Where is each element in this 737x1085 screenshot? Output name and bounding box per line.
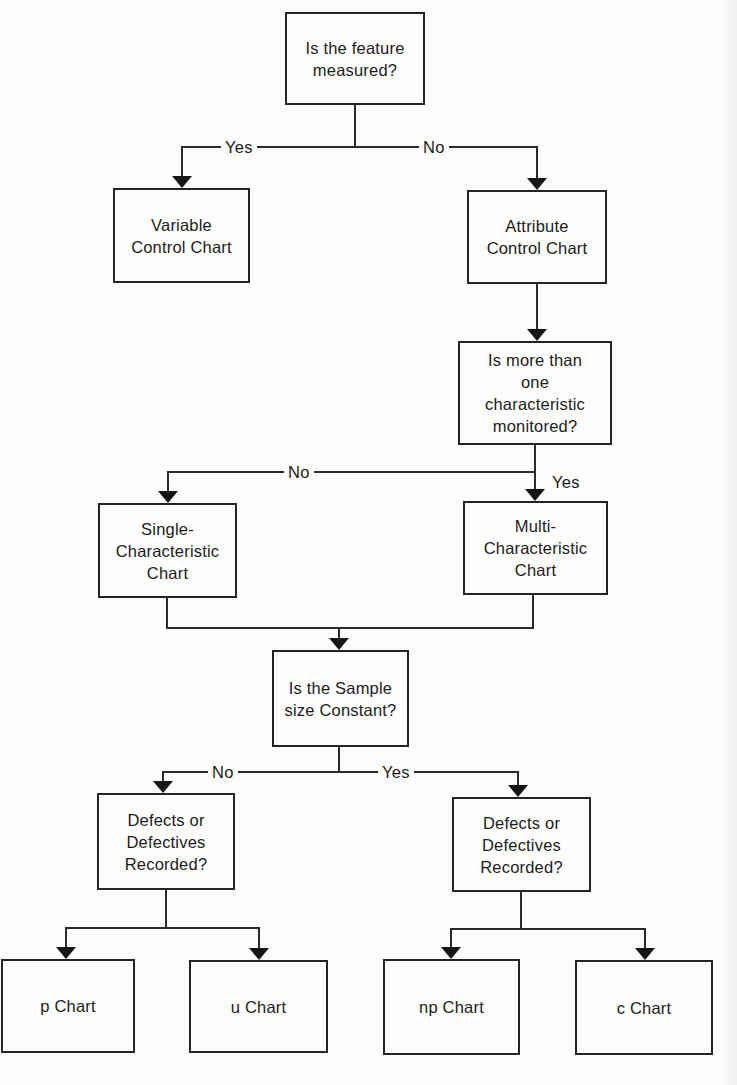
node-is-more-than-one-characteristic: Is more than one characteristic monitore… <box>458 341 612 445</box>
edge-label-multi-no: No <box>284 463 314 481</box>
edge-label-sample-yes: Yes <box>378 763 414 781</box>
flowchart-page: Is the feature measured? Variable Contro… <box>0 0 737 1085</box>
node-multi-characteristic-chart: Multi- Characteristic Chart <box>463 501 608 595</box>
node-defects-or-defectives-right: Defects or Defectives Recorded? <box>452 797 591 892</box>
edge-defects-left-stem-line <box>165 890 167 929</box>
arrowhead-into-attribute <box>527 178 547 190</box>
arrowhead-into-qsample <box>329 638 349 650</box>
arrowhead-into-qmulti <box>527 329 547 341</box>
node-is-sample-size-constant: Is the Sample size Constant? <box>272 650 409 747</box>
edge-label-measured-no: No <box>419 138 449 156</box>
arrowhead-into-single <box>158 491 178 503</box>
arrowhead-into-u-chart <box>249 948 269 960</box>
arrowhead-into-defects-right <box>508 785 528 797</box>
edge-defects-right-split-line <box>450 928 646 930</box>
edge-no-to-attribute-line <box>536 146 538 179</box>
node-np-chart: np Chart <box>383 959 520 1055</box>
arrowhead-into-np-chart <box>441 947 461 959</box>
edge-merge-line <box>166 627 534 629</box>
edge-qmulti-stem-line <box>534 445 536 490</box>
edge-to-c-chart-line <box>644 928 646 948</box>
node-p-chart: p Chart <box>1 959 135 1053</box>
arrowhead-into-variable <box>172 176 192 188</box>
node-attribute-control-chart: Attribute Control Chart <box>467 190 607 284</box>
edge-label-measured-yes: Yes <box>221 138 257 156</box>
edge-to-u-chart-line <box>258 927 260 948</box>
edge-single-down-line <box>166 598 168 629</box>
node-single-characteristic-chart: Single- Characteristic Chart <box>98 503 237 598</box>
edge-multi-down-line <box>532 595 534 629</box>
edge-to-np-chart-line <box>450 928 452 948</box>
node-u-chart: u Chart <box>189 960 328 1053</box>
edge-attribute-to-qmulti-line <box>536 284 538 330</box>
arrowhead-into-multi <box>525 489 545 501</box>
node-variable-control-chart: Variable Control Chart <box>113 188 250 283</box>
edge-qsample-stem-line <box>338 747 340 773</box>
arrowhead-into-c-chart <box>635 948 655 960</box>
edge-no-to-single-line <box>167 471 169 492</box>
arrowhead-into-defects-left <box>153 781 173 793</box>
edge-qmulti-no-branch-line <box>167 471 535 473</box>
edge-yes-to-variable-line <box>181 146 183 177</box>
node-is-feature-measured: Is the feature measured? <box>285 12 425 105</box>
node-c-chart: c Chart <box>575 960 713 1055</box>
arrowhead-into-p-chart <box>56 947 76 959</box>
edge-measured-stem-line <box>354 104 356 147</box>
edge-defects-left-split-line <box>65 927 260 929</box>
edge-to-p-chart-line <box>65 927 67 948</box>
edge-label-sample-no: No <box>208 763 238 781</box>
node-defects-or-defectives-left: Defects or Defectives Recorded? <box>97 793 235 890</box>
edge-defects-right-stem-line <box>520 892 522 930</box>
edge-label-multi-yes: Yes <box>548 473 584 491</box>
